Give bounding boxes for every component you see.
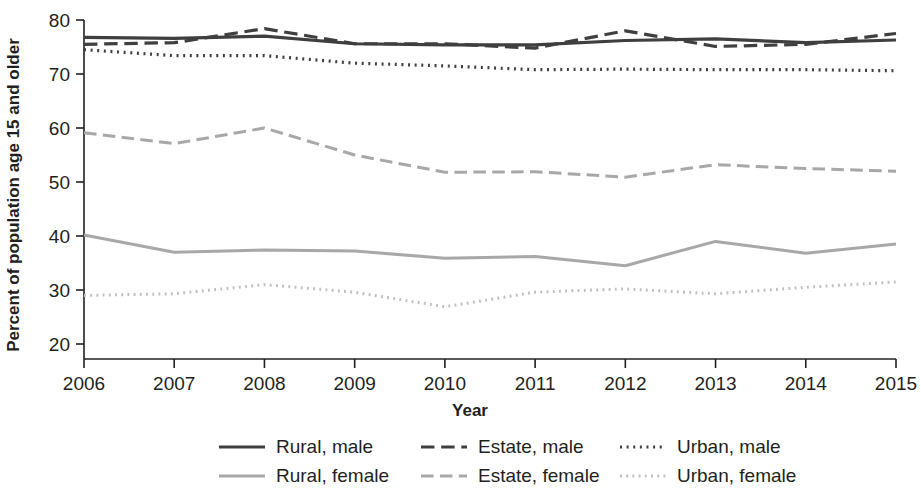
x-tick-label: 2011 [515, 373, 556, 394]
chart-legend: Rural, maleEstate, maleUrban, maleRural,… [219, 436, 796, 486]
data-series-group [84, 29, 896, 307]
series-line-urban_male [84, 50, 896, 71]
y-tick-label: 60 [49, 118, 70, 139]
y-tick-label: 50 [49, 172, 70, 193]
y-tick-label: 30 [49, 280, 70, 301]
series-line-estate_female [84, 128, 896, 177]
x-tick-label: 2013 [694, 373, 736, 394]
legend-label-estate_female: Estate, female [478, 465, 599, 486]
x-tick-label: 2006 [63, 373, 105, 394]
line-chart: Percent of population age 15 and older 2… [0, 0, 921, 496]
legend-label-rural_female: Rural, female [276, 465, 389, 486]
x-tick-label: 2014 [785, 373, 828, 394]
legend-label-urban_female: Urban, female [677, 465, 796, 486]
y-tick-label: 70 [49, 64, 70, 85]
series-line-rural_female [84, 235, 896, 266]
y-tick-label: 20 [49, 334, 70, 355]
y-tick-label: 40 [49, 226, 70, 247]
series-line-urban_female [84, 282, 896, 307]
x-tick-label: 2008 [243, 373, 285, 394]
legend-label-rural_male: Rural, male [276, 436, 373, 457]
x-axis-title: Year [452, 401, 488, 420]
x-tick-label: 2010 [424, 373, 466, 394]
y-axis-title: Percent of population age 15 and older [4, 38, 23, 352]
y-axis-title-group: Percent of population age 15 and older [4, 38, 23, 352]
x-tick-label: 2009 [334, 373, 376, 394]
chart-canvas: Percent of population age 15 and older 2… [0, 0, 921, 496]
legend-label-urban_male: Urban, male [677, 436, 781, 457]
y-tick-label: 80 [49, 10, 70, 31]
legend-label-estate_male: Estate, male [478, 436, 584, 457]
x-axis-ticks: 2006200720082009201020112012201320142015 [63, 359, 917, 394]
x-tick-label: 2012 [604, 373, 646, 394]
x-tick-label: 2007 [153, 373, 195, 394]
series-line-estate_male [84, 29, 896, 48]
x-tick-label: 2015 [875, 373, 917, 394]
y-axis-ticks: 20304050607080 [49, 10, 84, 355]
